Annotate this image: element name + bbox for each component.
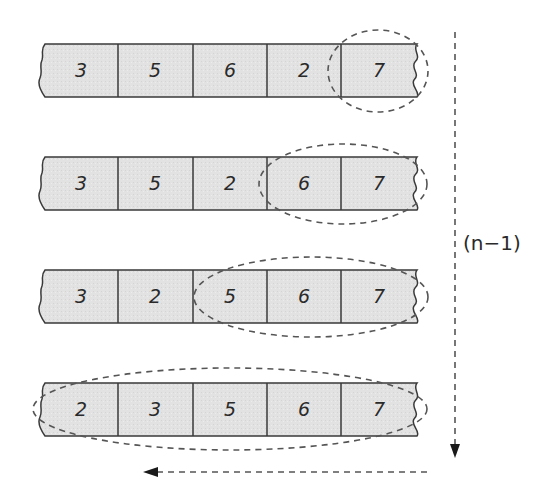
cell-value: 6 [298, 172, 310, 194]
cell-value: 2 [149, 285, 161, 307]
cell-value: 3 [75, 172, 87, 194]
cell-value: 3 [75, 285, 87, 307]
cell-value: 5 [149, 172, 161, 194]
cell-value: 3 [75, 59, 87, 81]
cell-value: 7 [373, 285, 385, 307]
cell-value: 6 [224, 59, 236, 81]
cell-value: 5 [224, 285, 236, 307]
array-row-1: 3 5 6 2 7 [39, 30, 428, 112]
cell-value: 6 [298, 398, 310, 420]
array-row-2: 3 5 2 6 7 [39, 144, 427, 224]
cell-value: 6 [298, 285, 310, 307]
cell-value: 5 [224, 398, 236, 420]
passes-arrow [450, 32, 460, 458]
cell-value: 2 [75, 398, 87, 420]
arrow-left-icon [143, 467, 158, 477]
array-row-3: 3 2 5 6 7 [39, 257, 428, 337]
cell-value: 2 [224, 172, 236, 194]
direction-arrow [143, 467, 427, 477]
passes-label: (n−1) [463, 231, 521, 255]
cell-value: 2 [298, 59, 310, 81]
arrow-down-icon [450, 444, 460, 458]
array-row-4: 2 3 5 6 7 [33, 368, 427, 450]
cell-value: 7 [373, 59, 385, 81]
cell-value: 5 [149, 59, 161, 81]
cell-value: 7 [373, 172, 385, 194]
cell-value: 3 [149, 398, 161, 420]
cell-value: 7 [373, 398, 385, 420]
bubble-sort-diagram: 3 5 6 2 7 3 5 2 6 7 3 2 5 6 7 [0, 0, 553, 489]
